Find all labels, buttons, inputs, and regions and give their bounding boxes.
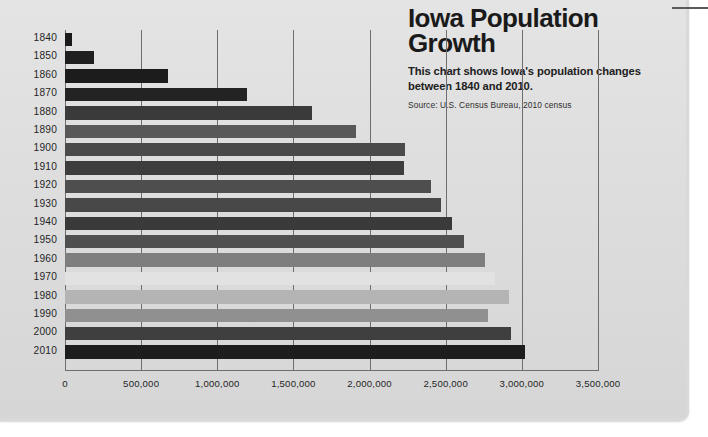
bar-row: 1910 [65, 159, 598, 177]
bar-1960[interactable] [65, 253, 485, 266]
y-axis-label-1950: 1950 [34, 234, 57, 245]
bar-row: 1920 [65, 177, 598, 195]
bar-1970[interactable] [65, 272, 495, 285]
x-tick-0: 0 [62, 378, 68, 389]
bar-row: 1990 [65, 306, 598, 324]
bar-1950[interactable] [65, 235, 464, 248]
bar-1940[interactable] [65, 217, 452, 230]
bar-1880[interactable] [65, 106, 312, 119]
bar-2000[interactable] [65, 327, 511, 340]
y-axis-label-1990: 1990 [34, 308, 57, 319]
x-tick-2000000: 2,000,000 [347, 378, 391, 389]
bar-row: 2000 [65, 324, 598, 342]
y-axis-label-1960: 1960 [34, 253, 57, 264]
y-axis-label-1940: 1940 [34, 216, 57, 227]
x-tick-1500000: 1,500,000 [271, 378, 315, 389]
bar-row: 1840 [65, 30, 598, 48]
y-axis-label-1930: 1930 [34, 198, 57, 209]
page-canvas: Iowa Population Growth This chart shows … [0, 0, 708, 437]
x-tick-3000000: 3,000,000 [500, 378, 544, 389]
bar-1990[interactable] [65, 309, 488, 322]
bar-1850[interactable] [65, 51, 94, 64]
y-axis-label-1980: 1980 [34, 290, 57, 301]
x-tick-1000000: 1,000,000 [195, 378, 239, 389]
x-axis-tick-labels: 0500,0001,000,0001,500,0002,000,0002,500… [65, 378, 598, 398]
bar-1900[interactable] [65, 143, 405, 156]
bar-1860[interactable] [65, 69, 168, 82]
bar-chart-plot-area: 1840185018601870188018901900191019201930… [65, 30, 598, 371]
y-axis-label-1880: 1880 [34, 106, 57, 117]
bar-row: 1950 [65, 232, 598, 250]
x-tick-3500000: 3,500,000 [576, 378, 620, 389]
bar-row: 1890 [65, 122, 598, 140]
y-axis-label-1970: 1970 [34, 271, 57, 282]
bar-2010[interactable] [65, 345, 525, 358]
y-axis-label-1920: 1920 [34, 179, 57, 190]
y-axis-label-1860: 1860 [34, 69, 57, 80]
y-axis-label-2000: 2000 [34, 326, 57, 337]
y-axis-label-1840: 1840 [34, 32, 57, 43]
y-axis-label-1890: 1890 [34, 124, 57, 135]
bar-row: 1970 [65, 269, 598, 287]
x-tick-500000: 500,000 [123, 378, 159, 389]
bar-1840[interactable] [65, 33, 72, 46]
x-tick-2500000: 2,500,000 [423, 378, 467, 389]
gridline-3500000 [598, 30, 599, 371]
bar-row: 1850 [65, 48, 598, 66]
bar-row: 1880 [65, 104, 598, 122]
bar-row: 1940 [65, 214, 598, 232]
y-axis-label-1910: 1910 [34, 161, 57, 172]
bar-row: 1960 [65, 251, 598, 269]
bar-row: 1870 [65, 85, 598, 103]
x-axis-baseline [65, 370, 598, 371]
bar-1890[interactable] [65, 125, 356, 138]
bar-1930[interactable] [65, 198, 441, 211]
y-axis-label-1870: 1870 [34, 87, 57, 98]
bar-1920[interactable] [65, 180, 431, 193]
bar-1980[interactable] [65, 290, 509, 303]
y-axis-label-1850: 1850 [34, 50, 57, 61]
bar-row: 1930 [65, 196, 598, 214]
bar-row: 1900 [65, 140, 598, 158]
y-axis-label-1900: 1900 [34, 142, 57, 153]
bar-row: 1980 [65, 288, 598, 306]
bar-1910[interactable] [65, 161, 404, 174]
y-axis-label-2010: 2010 [34, 345, 57, 356]
bar-row: 1860 [65, 67, 598, 85]
bar-1870[interactable] [65, 88, 247, 101]
bar-row: 2010 [65, 343, 598, 361]
